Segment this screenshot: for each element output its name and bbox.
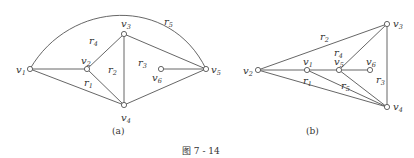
region-label: r3 xyxy=(138,57,147,70)
vertex-label: v1 xyxy=(16,64,26,77)
vertex-label: v5 xyxy=(211,64,221,77)
vertex-node xyxy=(158,66,163,71)
region-label: r4 xyxy=(89,35,98,48)
vertex-node xyxy=(27,66,32,71)
region-label: r1 xyxy=(303,75,312,88)
region-label: r5 xyxy=(164,16,173,29)
edge-v4-v5 xyxy=(124,69,206,105)
figure-canvas: v1v2v3v4v5v6r1r2r3r4r5v2v1v5v6v3v4r1r2r3… xyxy=(0,0,414,158)
vertex-label: v3 xyxy=(393,18,403,31)
region-label: r2 xyxy=(320,31,329,44)
region-label: r3 xyxy=(376,74,385,87)
vertex-node xyxy=(255,67,260,72)
vertex-node xyxy=(121,102,126,107)
vertex-label: v1 xyxy=(303,56,313,69)
region-label: r1 xyxy=(84,77,93,90)
vertex-label: v6 xyxy=(366,56,376,69)
vertex-node xyxy=(384,21,389,26)
graph-a xyxy=(30,15,206,105)
edge-v2-v4 xyxy=(258,70,387,107)
vertex-node xyxy=(384,104,389,109)
label-layer: v1v2v3v4v5v6r1r2r3r4r5v2v1v5v6v3v4r1r2r3… xyxy=(16,16,403,125)
vertex-node xyxy=(203,66,208,71)
subfigure-label-a: (a) xyxy=(112,126,124,136)
vertex-label: v2 xyxy=(243,65,253,78)
edge-v5-v3 xyxy=(339,24,387,70)
vertex-label: v3 xyxy=(121,18,131,31)
vertex-label: v4 xyxy=(393,101,403,114)
vertex-label: v2 xyxy=(81,55,91,68)
figure-caption: 图 7 - 14 xyxy=(182,146,220,156)
edge-v3-v5 xyxy=(124,34,206,69)
region-label: r5 xyxy=(341,80,350,93)
vertex-node xyxy=(121,31,126,36)
region-label: r2 xyxy=(108,64,117,77)
vertex-label: v4 xyxy=(121,112,131,125)
vertex-label: v6 xyxy=(152,72,162,85)
edge-v1-v5-arc xyxy=(30,15,206,69)
subfigure-label-b: (b) xyxy=(306,126,319,136)
